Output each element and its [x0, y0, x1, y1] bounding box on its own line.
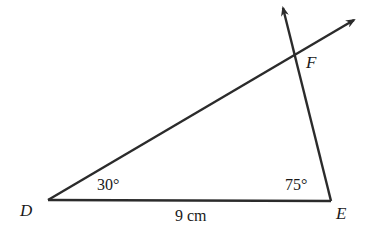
angle-label-d: 30°: [97, 176, 119, 193]
vertex-label-f: F: [305, 53, 317, 72]
side-de: [48, 200, 331, 201]
vertex-label-d: D: [19, 201, 33, 220]
side-length-label: 9 cm: [175, 207, 207, 224]
angle-label-e: 75°: [285, 176, 307, 193]
triangle-diagram: D E F 30° 75° 9 cm: [0, 0, 376, 237]
vertex-label-e: E: [335, 204, 347, 223]
